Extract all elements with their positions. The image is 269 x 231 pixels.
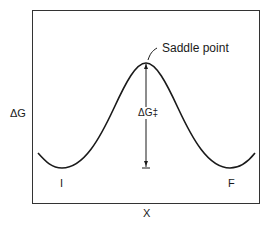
arrow-head-down-icon: [144, 161, 148, 166]
energy-profile-diagram: [0, 0, 269, 231]
x-axis-label: X: [143, 207, 150, 219]
y-axis-label: ΔG: [10, 107, 26, 119]
barrier-label: ΔG‡: [138, 107, 158, 119]
saddle-pointer-line: [148, 48, 157, 60]
arrow-head-up-icon: [144, 64, 148, 69]
final-state-label: F: [228, 177, 235, 189]
initial-state-label: I: [60, 177, 63, 189]
saddle-point-label: Saddle point: [162, 42, 229, 54]
